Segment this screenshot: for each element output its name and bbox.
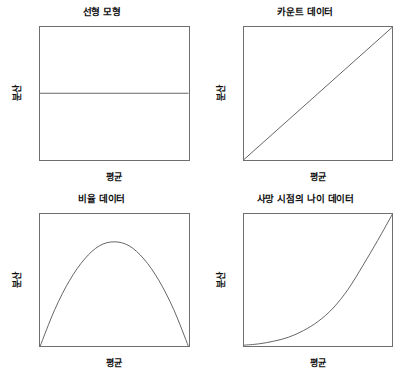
panel-title-proportion-data: 비율 데이터 — [0, 193, 204, 205]
x-axis-label-age-at-death-data: 평균 — [243, 356, 394, 369]
variance-mean-figure: 선형 모형 분산 평균 카운트 데이터 분산 평균 비율 데이터 분산 평균 사… — [0, 0, 407, 373]
panel-title-count-data: 카운트 데이터 — [204, 6, 407, 18]
y-axis-label-linear-model: 분산 — [10, 85, 23, 101]
x-axis-label-proportion-data: 평균 — [39, 356, 190, 369]
x-axis-label-linear-model: 평균 — [39, 170, 190, 183]
panel-linear-model: 선형 모형 분산 평균 — [0, 0, 204, 187]
plot-curve-age-at-death-data — [244, 214, 393, 347]
panel-age-at-death-data: 사망 시점의 나이 데이터 분산 평균 — [204, 187, 407, 373]
panel-title-linear-model: 선형 모형 — [0, 6, 204, 18]
plot-area-count-data — [243, 26, 394, 161]
panel-count-data: 카운트 데이터 분산 평균 — [204, 0, 407, 187]
plot-curve-count-data — [244, 27, 393, 160]
plot-curve-proportion-data — [40, 214, 189, 347]
y-axis-label-age-at-death-data: 분산 — [213, 272, 226, 288]
plot-area-linear-model — [39, 26, 190, 161]
panel-proportion-data: 비율 데이터 분산 평균 — [0, 187, 204, 373]
panel-title-age-at-death-data: 사망 시점의 나이 데이터 — [204, 193, 407, 205]
plot-curve-linear-model — [40, 27, 189, 160]
y-axis-label-proportion-data: 분산 — [10, 272, 23, 288]
plot-area-age-at-death-data — [243, 213, 394, 348]
plot-area-proportion-data — [39, 213, 190, 348]
y-axis-label-count-data: 분산 — [213, 85, 226, 101]
x-axis-label-count-data: 평균 — [243, 170, 394, 183]
